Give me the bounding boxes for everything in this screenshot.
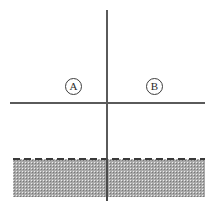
region-label-b: B	[146, 78, 163, 95]
shaded-region-dashed-border	[13, 158, 205, 160]
horizontal-axis-line	[10, 102, 205, 104]
shaded-ground-region	[13, 159, 205, 197]
region-label-b-text: B	[151, 81, 158, 92]
region-label-a: A	[65, 78, 82, 95]
diagram-canvas: A B	[0, 0, 213, 210]
vertical-axis-line-over-shading	[106, 158, 108, 201]
region-label-a-text: A	[70, 81, 78, 92]
